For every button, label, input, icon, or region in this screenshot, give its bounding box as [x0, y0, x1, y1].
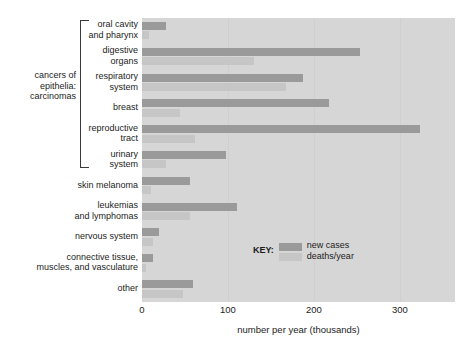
x-tick-label: 100 [220, 304, 236, 315]
bar-new-cases [142, 254, 153, 262]
category-label-line: system [13, 82, 138, 93]
category-label-line: system [13, 159, 138, 170]
legend-label-new-cases: new cases [307, 240, 354, 251]
chart-legend: KEY: new cases deaths/year [253, 240, 354, 262]
category-label-line: muscles, and vasculature [13, 262, 138, 273]
category-label: urinarysystem [13, 149, 138, 170]
bar-row [142, 276, 455, 302]
cancer-incidence-bar-chart: cancers ofepithelia:carcinomas oral cavi… [0, 0, 470, 350]
bar-deaths-per-year [142, 57, 254, 65]
bar-deaths-per-year [142, 238, 153, 246]
bar-row [142, 95, 455, 121]
category-label-line: respiratory [13, 71, 138, 82]
bar-deaths-per-year [142, 264, 146, 272]
x-tick-label: 0 [139, 304, 144, 315]
x-axis-title: number per year (thousands) [142, 324, 455, 335]
bar-row [142, 18, 455, 44]
bar-deaths-per-year [142, 186, 151, 194]
bar-deaths-per-year [142, 109, 180, 117]
bar-new-cases [142, 74, 303, 82]
category-label: respiratorysystem [13, 71, 138, 92]
legend-label-deaths: deaths/year [307, 251, 354, 262]
x-tick-label: 300 [392, 304, 408, 315]
bar-row [142, 121, 455, 147]
bar-deaths-per-year [142, 31, 149, 39]
bar-new-cases [142, 177, 190, 185]
bar-deaths-per-year [142, 160, 166, 168]
bar-new-cases [142, 48, 360, 56]
bar-new-cases [142, 151, 226, 159]
bar-row [142, 44, 455, 70]
bar-row [142, 199, 455, 225]
category-label: connective tissue,muscles, and vasculatu… [13, 252, 138, 273]
bar-new-cases [142, 22, 166, 30]
bar-deaths-per-year [142, 212, 190, 220]
bar-new-cases [142, 99, 329, 107]
bar-new-cases [142, 280, 193, 288]
bar-new-cases [142, 203, 237, 211]
bar-new-cases [142, 125, 420, 133]
category-label: leukemiasand lymphomas [13, 200, 138, 221]
legend-swatches [279, 240, 302, 261]
bar-deaths-per-year [142, 135, 195, 143]
category-label: skin melanoma [13, 180, 138, 191]
category-label-line: reproductive [13, 123, 138, 134]
category-label-line: other [13, 283, 138, 294]
category-label-line: breast [13, 102, 138, 113]
category-label: breast [13, 102, 138, 113]
x-tick-label: 200 [306, 304, 322, 315]
category-label-line: connective tissue, [13, 252, 138, 263]
bar-row [142, 147, 455, 173]
category-label-line: tract [13, 133, 138, 144]
category-label-line: nervous system [13, 231, 138, 242]
legend-swatch-deaths [279, 253, 302, 261]
category-label: reproductivetract [13, 123, 138, 144]
legend-swatch-new-cases [279, 243, 302, 251]
bar-row [142, 70, 455, 96]
category-label-line: and pharynx [13, 30, 138, 41]
category-label: oral cavityand pharynx [13, 19, 138, 40]
category-label-line: digestive [13, 45, 138, 56]
bar-new-cases [142, 228, 159, 236]
category-label-line: leukemias [13, 200, 138, 211]
category-label: digestiveorgans [13, 45, 138, 66]
bar-deaths-per-year [142, 290, 183, 298]
category-label-line: skin melanoma [13, 180, 138, 191]
legend-labels: new cases deaths/year [307, 240, 354, 262]
legend-title: KEY: [253, 240, 274, 256]
category-label-line: and lymphomas [13, 211, 138, 222]
category-label-column: oral cavityand pharynxdigestiveorgansres… [0, 18, 138, 302]
category-label: other [13, 283, 138, 294]
bar-deaths-per-year [142, 83, 286, 91]
x-axis: 0100200300 [142, 302, 455, 308]
category-label-line: urinary [13, 149, 138, 160]
bar-row [142, 173, 455, 199]
category-label-line: organs [13, 56, 138, 67]
category-label-line: oral cavity [13, 19, 138, 30]
category-label: nervous system [13, 231, 138, 242]
